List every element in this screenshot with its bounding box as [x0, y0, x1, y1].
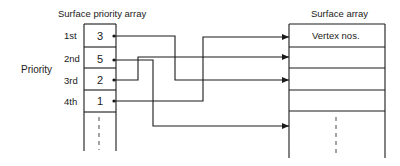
pointer-line-1st	[114, 36, 289, 80]
pointer-dot	[112, 58, 115, 61]
surface-array-box	[289, 24, 385, 158]
priority-axis-label: Priority	[21, 65, 52, 75]
priority-cell-value: 3	[92, 31, 108, 42]
pointer-dot	[112, 34, 115, 37]
surface-priority-array-box	[84, 24, 116, 151]
rank-label: 4th	[64, 97, 77, 107]
rank-label: 3rd	[64, 76, 78, 86]
rank-label: 2nd	[64, 54, 80, 64]
pointer-line-4th	[114, 37, 289, 101]
surface-priority-array-title: Surface priority array	[58, 9, 146, 19]
rank-label: 1st	[64, 31, 77, 41]
vertex-nos-cell: Vertex nos.	[312, 31, 360, 41]
priority-cell-value: 5	[92, 54, 108, 65]
pointer-dot	[112, 99, 115, 102]
priority-cell-value: 2	[92, 75, 108, 86]
pointer-dot	[112, 78, 115, 81]
pointer-line-2nd	[114, 60, 289, 126]
priority-cell-value: 1	[92, 96, 108, 107]
diagram-canvas	[0, 0, 400, 166]
surface-array-title: Surface array	[311, 9, 368, 19]
